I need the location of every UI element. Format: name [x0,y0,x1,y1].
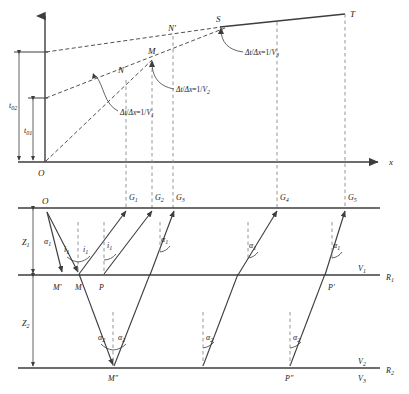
point-mdprime-label: M″ [107,374,119,383]
point-pdprime-label: P″ [284,374,294,383]
velocity-v2-label: V2 [358,357,366,367]
velocity-v3-label: V3 [358,374,366,384]
x-axis-label: x [388,157,393,167]
figure-canvas: O x t02 t01 N M N' S T Δt/Δx=1/V1 Δt/Δx=… [0,0,409,394]
thickness-z1-label: Z1 [22,238,29,248]
angle-alpha1-source-label: α1 [44,237,51,247]
slope-v3-annotation: Δt/Δx=1/V3 [244,48,279,58]
leader-v2 [152,62,174,89]
leader-v1 [96,76,118,111]
angle-alpha1-g4-label: α1 [249,241,256,251]
slope-v1-annotation: Δt/Δx=1/V1 [119,108,154,118]
ray-deep-g4-lower [203,274,238,366]
arc-i1-third [104,254,116,260]
angle-alpha2-left-label: α2 [98,333,105,343]
geophone-g1-label: G1 [129,193,138,203]
geophone-g2-label: G2 [155,193,164,203]
point-n-label: N [117,65,125,75]
point-m-label: M [147,46,156,56]
point-s-label: S [216,14,221,24]
arc-alpha1-g3 [160,246,170,252]
ray-o-m [47,212,78,272]
angle-alpha2-mid-label: α2 [206,333,213,343]
interface-r1-label: R1 [385,273,394,283]
thickness-z2-label: Z2 [22,319,29,329]
point-m-lower-label: M [74,283,83,292]
t02-label: t02 [9,101,17,111]
point-mprime-label: M' [52,283,62,292]
interface-r2-label: R2 [385,366,394,376]
arc-alpha1-g5 [332,252,342,258]
ray-ppp-pprime [290,274,325,366]
ray-m-g1 [79,211,126,274]
angle-i1-left-label: i1 [64,245,69,255]
t01-label: t01 [24,126,32,136]
ray-deep-g4-upper [238,211,277,275]
slope-v2-annotation: Δt/Δx=1/V2 [175,85,210,95]
geophone-g3-label: G3 [176,193,185,203]
source-label-o: O [42,196,49,206]
geophone-g5-label: G5 [348,193,357,203]
velocity-v1-label: V1 [358,264,366,274]
raypath-model: O G1 G2 G3 G4 G5 Z1 Z2 V1 R1 V2 R2 V3 M'… [18,193,394,384]
angle-alpha2-right-label: α2 [118,333,125,343]
angle-alpha2-far-label: α2 [293,333,300,343]
point-t-label: T [350,9,356,19]
arc-alpha2-right [113,344,126,350]
ray-p-g2 [104,211,152,274]
origin-label-top: O [38,168,45,178]
geophone-g4-label: G4 [280,193,289,203]
traveltime-plot: O x t02 t01 N M N' S T Δt/Δx=1/V1 Δt/Δx=… [9,9,393,208]
leader-v3 [221,29,243,52]
angle-alpha1-g5-label: α1 [333,241,340,251]
angle-i1-third-label: i1 [107,241,112,251]
branch-v3-solid [220,14,345,27]
point-nprime-label: N' [167,23,177,33]
ray-m-mpp [79,274,113,365]
point-pprime-label: P' [327,283,335,292]
angle-i1-right-label: i1 [83,245,88,255]
ray-mpp-r1 [114,274,150,366]
point-p-label: P [98,283,104,292]
angle-alpha1-g3-label: α1 [161,235,168,245]
